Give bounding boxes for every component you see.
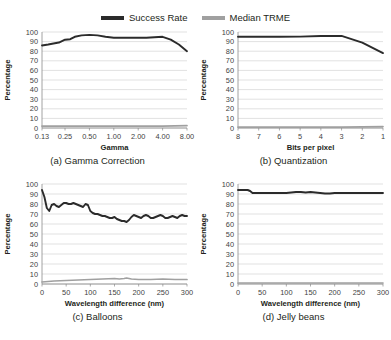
x-tick-label: 1 xyxy=(381,132,385,141)
plot-area-a: 01020304050607080901000.130.250.501.002.… xyxy=(0,26,195,156)
x-tick-label: 4.00 xyxy=(155,132,169,141)
y-tick-label: 40 xyxy=(30,85,38,94)
x-tick-label: 50 xyxy=(258,288,266,297)
y-axis-title: Percentage xyxy=(3,60,12,101)
y-tick-label: 80 xyxy=(226,200,234,209)
legend-label-median-trme: Median TRME xyxy=(230,13,291,23)
subplot-jelly-beans: 0102030405060708090100050100150200250300… xyxy=(196,178,391,333)
y-tick-label: 90 xyxy=(30,190,38,199)
x-tick-label: 0.13 xyxy=(35,132,49,141)
x-tick-label: 100 xyxy=(84,288,96,297)
y-tick-label: 100 xyxy=(222,180,234,189)
x-tick-label: 150 xyxy=(304,288,316,297)
x-tick-label: 300 xyxy=(181,288,193,297)
x-tick-label: 2.00 xyxy=(131,132,145,141)
y-tick-label: 20 xyxy=(30,104,38,113)
y-tick-label: 80 xyxy=(30,47,38,56)
series-line-success-rate xyxy=(238,190,383,194)
y-tick-label: 10 xyxy=(226,270,234,279)
y-tick-label: 50 xyxy=(226,76,234,85)
x-axis-title: Wavelength difference (nm) xyxy=(65,299,165,308)
x-tick-label: 8.00 xyxy=(180,132,194,141)
x-tick-label: 1.00 xyxy=(107,132,121,141)
y-tick-label: 70 xyxy=(226,56,234,65)
x-tick-label: 50 xyxy=(62,288,70,297)
y-tick-label: 20 xyxy=(30,260,38,269)
y-axis-title: Percentage xyxy=(3,214,12,255)
legend-item-median-trme: Median TRME xyxy=(202,13,291,23)
y-tick-label: 80 xyxy=(30,200,38,209)
subplot-quantization: 010203040506070809010087654321Bits per p… xyxy=(196,26,391,181)
y-axis-title: Percentage xyxy=(199,60,208,101)
x-tick-label: 300 xyxy=(377,288,389,297)
legend-swatch-success-rate xyxy=(101,16,124,20)
y-tick-label: 0 xyxy=(230,124,234,133)
x-tick-label: 0 xyxy=(236,288,240,297)
y-axis-title: Percentage xyxy=(199,214,208,255)
caption-c: (c) Balloons xyxy=(0,311,195,322)
figure-multi-panel-line-charts: Success Rate Median TRME 010203040506070… xyxy=(0,0,391,340)
y-tick-label: 10 xyxy=(226,114,234,123)
y-tick-label: 0 xyxy=(34,280,38,289)
y-tick-label: 70 xyxy=(30,210,38,219)
x-axis-title: Wavelength difference (nm) xyxy=(261,299,361,308)
x-tick-label: 0.50 xyxy=(82,132,96,141)
y-tick-label: 30 xyxy=(30,250,38,259)
y-tick-label: 60 xyxy=(226,66,234,75)
subplot-balloons: 0102030405060708090100050100150200250300… xyxy=(0,178,195,333)
x-tick-label: 200 xyxy=(328,288,340,297)
y-tick-label: 50 xyxy=(30,230,38,239)
y-tick-label: 90 xyxy=(30,37,38,46)
x-axis-title: Gamma xyxy=(101,143,130,152)
x-tick-label: 7 xyxy=(257,132,261,141)
x-tick-label: 3 xyxy=(340,132,344,141)
x-tick-label: 2 xyxy=(360,132,364,141)
y-tick-label: 60 xyxy=(226,220,234,229)
plot-area-c: 0102030405060708090100050100150200250300… xyxy=(0,178,195,312)
x-tick-label: 8 xyxy=(236,132,240,141)
y-tick-label: 10 xyxy=(30,270,38,279)
x-tick-label: 6 xyxy=(277,132,281,141)
y-tick-label: 50 xyxy=(30,76,38,85)
y-tick-label: 70 xyxy=(226,210,234,219)
y-tick-label: 30 xyxy=(226,250,234,259)
x-tick-label: 150 xyxy=(108,288,120,297)
y-tick-label: 20 xyxy=(226,104,234,113)
y-tick-label: 40 xyxy=(226,85,234,94)
series-line-success-rate xyxy=(42,35,187,51)
y-tick-label: 10 xyxy=(30,114,38,123)
y-tick-label: 50 xyxy=(226,230,234,239)
y-tick-label: 90 xyxy=(226,190,234,199)
x-tick-label: 4 xyxy=(319,132,323,141)
legend-swatch-median-trme xyxy=(202,16,225,20)
x-tick-label: 200 xyxy=(132,288,144,297)
y-tick-label: 20 xyxy=(226,260,234,269)
series-line-success-rate xyxy=(42,190,187,222)
plot-area-b: 010203040506070809010087654321Bits per p… xyxy=(196,26,391,156)
series-line-success-rate xyxy=(238,36,383,53)
caption-d: (d) Jelly beans xyxy=(196,311,391,322)
legend-label-success-rate: Success Rate xyxy=(129,13,188,23)
series-line-median-trme xyxy=(42,278,187,282)
x-tick-label: 0.25 xyxy=(58,132,72,141)
legend-item-success-rate: Success Rate xyxy=(101,13,188,23)
subplot-gamma-correction: 01020304050607080901000.130.250.501.002.… xyxy=(0,26,195,181)
y-tick-label: 100 xyxy=(26,28,38,37)
x-tick-label: 100 xyxy=(280,288,292,297)
y-tick-label: 80 xyxy=(226,47,234,56)
y-tick-label: 30 xyxy=(30,95,38,104)
caption-a: (a) Gamma Correction xyxy=(0,155,195,166)
caption-b: (b) Quantization xyxy=(196,155,391,166)
y-tick-label: 100 xyxy=(26,180,38,189)
y-tick-label: 40 xyxy=(226,240,234,249)
y-tick-label: 40 xyxy=(30,240,38,249)
x-tick-label: 250 xyxy=(157,288,169,297)
x-tick-label: 250 xyxy=(353,288,365,297)
y-tick-label: 60 xyxy=(30,66,38,75)
plot-area-d: 0102030405060708090100050100150200250300… xyxy=(196,178,391,312)
x-axis-title: Bits per pixel xyxy=(287,143,335,152)
y-tick-label: 0 xyxy=(230,280,234,289)
y-tick-label: 70 xyxy=(30,56,38,65)
y-tick-label: 90 xyxy=(226,37,234,46)
x-tick-label: 5 xyxy=(298,132,302,141)
